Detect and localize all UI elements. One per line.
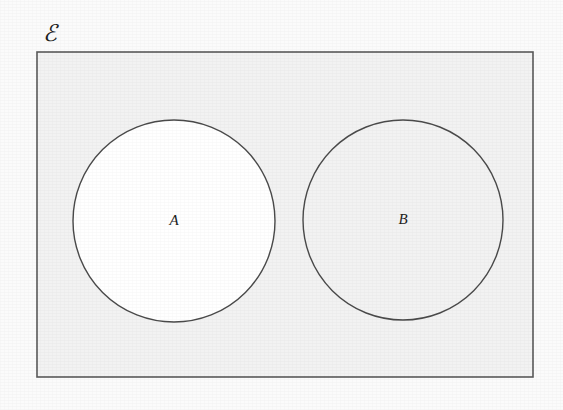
venn-diagram-canvas: ℰ A B <box>0 0 563 410</box>
universal-set-label: ℰ <box>43 21 59 46</box>
set-a-label: A <box>168 212 179 228</box>
venn-diagram-figure: ℰ A B <box>0 0 563 410</box>
set-b-label: B <box>398 211 407 227</box>
